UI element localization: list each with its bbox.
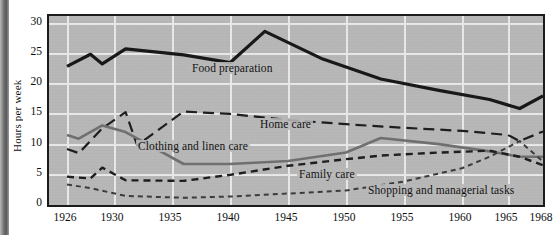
y-tick-label: 5 xyxy=(8,166,42,178)
y-tick-label: 20 xyxy=(8,75,42,87)
x-tick-label: 1960 xyxy=(449,211,472,223)
x-tick-label: 1955 xyxy=(391,211,414,223)
x-tick-label: 1950 xyxy=(333,211,356,223)
x-tick-label: 1926 xyxy=(54,211,77,223)
series-annotation-label: Clothing and linen care xyxy=(136,140,250,152)
series-annotation-label: Family care xyxy=(297,168,357,180)
series-annotation-clothing-and-linen-care: Clothing and linen care xyxy=(136,140,250,152)
x-tick-label: 1935 xyxy=(159,211,182,223)
y-tick-label: 25 xyxy=(8,45,42,57)
plot-area xyxy=(47,14,545,207)
y-tick-label: 15 xyxy=(8,105,42,117)
chart-page: Hours per week 30 25 20 15 10 5 0 1926 1… xyxy=(0,0,559,235)
series-annotation-food-preparation: Food preparation xyxy=(190,62,274,74)
series-annotation-home-care: Home care xyxy=(258,118,313,130)
series-annotation-label: Home care xyxy=(258,118,313,130)
plot-frame xyxy=(47,14,545,207)
series-annotation-shopping-and-managerial-tasks: Shopping and managerial tasks xyxy=(366,184,516,196)
x-tick-label: 1965 xyxy=(495,211,518,223)
y-tick-label: 0 xyxy=(8,196,42,208)
series-line-food-preparation xyxy=(67,31,543,108)
x-tick-label: 1968 xyxy=(530,211,553,223)
x-tick-label: 1930 xyxy=(101,211,124,223)
series-annotation-label: Food preparation xyxy=(190,62,274,74)
series-lines xyxy=(49,16,543,205)
y-tick-label: 10 xyxy=(8,136,42,148)
series-annotation-family-care: Family care xyxy=(297,168,357,180)
series-annotation-label: Shopping and managerial tasks xyxy=(366,184,516,196)
gridline-vertical xyxy=(543,16,545,205)
y-tick-label: 30 xyxy=(8,15,42,27)
x-tick-label: 1945 xyxy=(275,211,298,223)
x-tick-label: 1940 xyxy=(217,211,240,223)
